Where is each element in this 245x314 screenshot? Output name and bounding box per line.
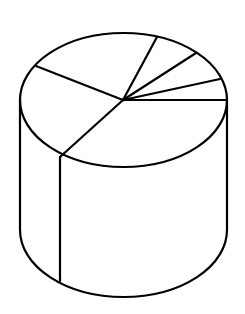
bottom-rim — [20, 230, 227, 297]
slice-line-6 — [60, 100, 123, 157]
slice-line-2 — [123, 37, 157, 100]
pie-cylinder-diagram — [0, 0, 245, 314]
slice-line-1 — [36, 66, 123, 100]
